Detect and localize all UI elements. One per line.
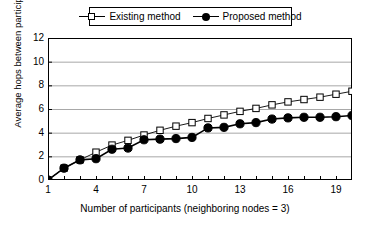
chart-figure: Existing method Proposed method 02468101…: [0, 0, 370, 228]
marker-1-9: [188, 133, 196, 141]
y-tick-label-2: 2: [22, 151, 44, 161]
marker-0-7: [157, 127, 163, 133]
marker-0-10: [205, 115, 211, 121]
plot-canvas: [48, 38, 352, 180]
y-tick-label-0: 0: [22, 175, 44, 185]
y-tick-label-8: 8: [22, 80, 44, 90]
marker-1-6: [140, 136, 148, 144]
legend-item-existing-method: Existing method: [79, 12, 180, 22]
marker-1-12: [236, 120, 244, 128]
marker-0-9: [189, 119, 195, 125]
x-tick-label-4: 4: [86, 185, 106, 195]
legend-label-proposed-method: Proposed method: [223, 12, 302, 22]
marker-1-8: [172, 134, 180, 142]
marker-0-5: [125, 137, 131, 143]
x-tick-label-7: 7: [134, 185, 154, 195]
y-tick-label-6: 6: [22, 104, 44, 114]
marker-1-2: [76, 156, 84, 164]
x-tick-label-13: 13: [230, 185, 250, 195]
x-tick-label-16: 16: [278, 185, 298, 195]
marker-1-11: [220, 123, 228, 131]
chart-legend: Existing method Proposed method: [89, 7, 292, 26]
marker-0-17: [317, 94, 323, 100]
marker-1-19: [348, 111, 352, 119]
marker-1-17: [316, 113, 324, 121]
legend-label-existing-method: Existing method: [109, 12, 180, 22]
marker-1-1: [60, 164, 68, 172]
marker-1-5: [124, 144, 132, 152]
marker-0-19: [349, 88, 352, 94]
y-tick-label-12: 12: [22, 33, 44, 43]
marker-1-14: [268, 115, 276, 123]
y-tick-label-4: 4: [22, 128, 44, 138]
marker-1-16: [300, 113, 308, 121]
legend-marker-filled-circle-icon: [193, 12, 219, 22]
marker-0-12: [237, 108, 243, 114]
marker-1-18: [332, 113, 340, 121]
x-tick-label-1: 1: [38, 185, 58, 195]
series-line-1: [48, 116, 352, 180]
marker-0-8: [173, 123, 179, 129]
marker-0-16: [301, 96, 307, 102]
marker-0-15: [285, 99, 291, 105]
series-line-0: [48, 91, 352, 180]
marker-1-7: [156, 135, 164, 143]
marker-0-18: [333, 91, 339, 97]
x-tick-label-10: 10: [182, 185, 202, 195]
x-axis-title: Number of participants (neighboring node…: [0, 203, 370, 215]
marker-1-4: [108, 145, 116, 153]
y-tick-label-10: 10: [22, 57, 44, 67]
marker-0-13: [253, 105, 259, 111]
marker-0-14: [269, 102, 275, 108]
legend-marker-open-square-icon: [79, 12, 105, 22]
x-tick-label-19: 19: [326, 185, 346, 195]
plot-area: [48, 38, 352, 180]
marker-0-11: [221, 112, 227, 118]
legend-item-proposed-method: Proposed method: [193, 12, 302, 22]
x-axis-tick-labels: 14710131619: [0, 185, 370, 199]
marker-1-15: [284, 114, 292, 122]
marker-1-13: [252, 119, 260, 127]
y-axis-title: Average hops between participants: [12, 0, 23, 134]
marker-1-3: [92, 155, 100, 163]
marker-1-10: [204, 124, 212, 132]
